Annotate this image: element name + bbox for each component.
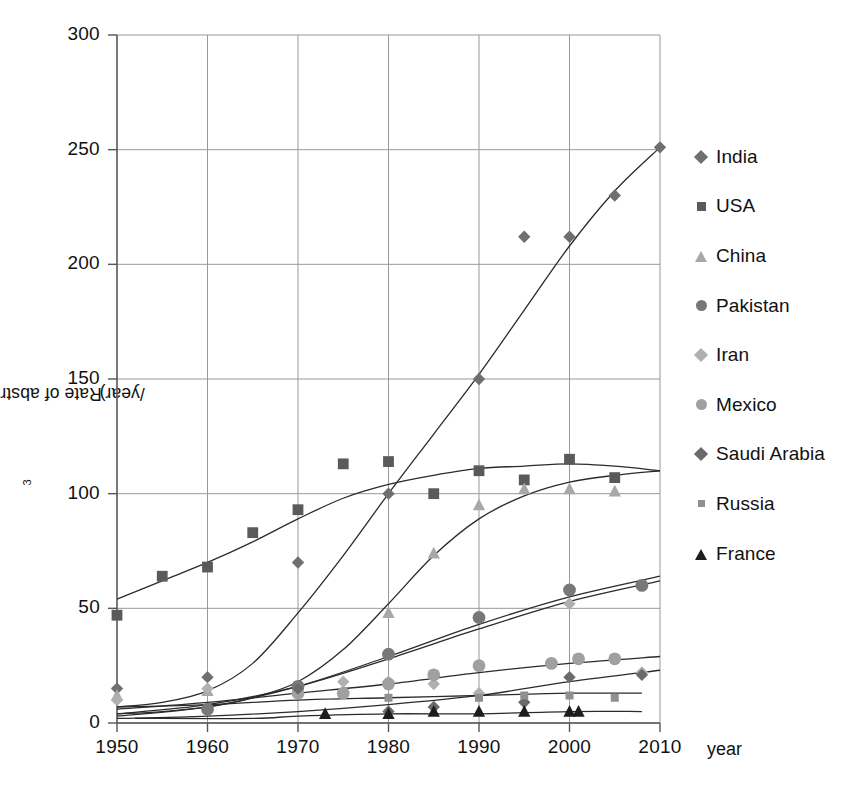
marker-glyph (694, 150, 708, 164)
diamond-marker-icon (690, 149, 712, 165)
data-point-india (382, 487, 394, 499)
marker-glyph (696, 399, 707, 410)
x-axis-tick-label: 2000 (525, 736, 615, 758)
legend-item-iran[interactable]: Iran (690, 330, 853, 380)
x-axis-tick-label: 1990 (434, 736, 524, 758)
y-axis-tick-label: 250 (38, 138, 100, 160)
data-point-china (563, 482, 575, 494)
data-point-usa (609, 472, 620, 483)
y-axis-tick-label: 300 (38, 23, 100, 45)
data-point-mexico (382, 678, 395, 691)
data-point-india (473, 373, 485, 385)
legend-item-label: Pakistan (716, 295, 790, 317)
data-point-russia (520, 691, 528, 699)
data-point-usa (157, 571, 168, 582)
legend-item-france[interactable]: France (690, 529, 853, 579)
data-point-pakistan (636, 579, 649, 592)
data-point-russia (475, 694, 483, 702)
triangle-marker-icon (690, 248, 712, 264)
x-axis-tick-label: 1980 (344, 736, 434, 758)
data-point-usa (564, 454, 575, 465)
legend-item-label: France (716, 543, 776, 565)
data-point-pakistan (563, 584, 576, 597)
data-point-mexico (572, 652, 585, 665)
data-point-pakistan (201, 703, 214, 716)
marker-glyph (697, 202, 706, 211)
data-point-mexico (427, 668, 440, 681)
data-point-usa (247, 527, 258, 538)
data-point-china (609, 485, 621, 497)
data-point-india (609, 189, 621, 201)
circle-marker-icon (690, 397, 712, 413)
y-axis-tick-label: 0 (38, 711, 100, 733)
data-point-russia (611, 694, 619, 702)
marker-glyph (698, 500, 705, 507)
chart-legend: IndiaUSAChinaPakistanIranMexicoSaudi Ara… (690, 132, 853, 578)
data-point-usa (293, 504, 304, 515)
chart-figure: Rate of abstraction (km3/year) 050100150… (0, 0, 853, 788)
data-point-iran (111, 694, 123, 706)
data-point-india (292, 556, 304, 568)
legend-item-label: Iran (716, 344, 749, 366)
data-point-usa (383, 456, 394, 467)
marker-glyph (694, 447, 708, 461)
data-point-france (473, 705, 485, 717)
data-point-russia (385, 694, 393, 702)
data-point-usa (112, 610, 123, 621)
data-point-mexico (545, 657, 558, 670)
data-point-saudi-arabia (636, 669, 648, 681)
data-point-russia (566, 691, 574, 699)
diamond-marker-icon (690, 347, 712, 363)
legend-item-pakistan[interactable]: Pakistan (690, 281, 853, 331)
legend-item-label: Saudi Arabia (716, 443, 825, 465)
data-point-mexico (608, 652, 621, 665)
marker-glyph (695, 549, 707, 560)
data-point-pakistan (473, 611, 486, 624)
data-point-mexico (473, 659, 486, 672)
legend-item-label: Russia (716, 493, 775, 515)
data-point-india (518, 231, 530, 243)
x-axis-title: year (707, 739, 742, 760)
y-axis-tick-label: 200 (38, 252, 100, 274)
square-sm-marker-icon (690, 496, 712, 512)
legend-item-india[interactable]: India (690, 132, 853, 182)
marker-glyph (694, 348, 708, 362)
data-point-usa (202, 562, 213, 573)
x-axis-tick-label: 1960 (163, 736, 253, 758)
triangle-marker-icon (690, 546, 712, 562)
x-axis-tick-label: 2010 (615, 736, 705, 758)
legend-item-china[interactable]: China (690, 231, 853, 281)
y-axis-tick-label: 50 (38, 596, 100, 618)
data-point-india (201, 671, 213, 683)
y-axis-tick-label: 150 (38, 367, 100, 389)
legend-item-usa[interactable]: USA (690, 182, 853, 232)
square-marker-icon (690, 198, 712, 214)
legend-item-saudi-arabia[interactable]: Saudi Arabia (690, 430, 853, 480)
marker-glyph (696, 300, 707, 311)
x-axis-tick-label: 1950 (72, 736, 162, 758)
data-point-usa (474, 465, 485, 476)
legend-item-mexico[interactable]: Mexico (690, 380, 853, 430)
data-point-pakistan (382, 648, 395, 661)
legend-item-label: Mexico (716, 394, 777, 416)
data-point-china (473, 499, 485, 511)
y-axis-tick-label: 100 (38, 482, 100, 504)
data-point-france (518, 705, 530, 717)
data-point-usa (428, 488, 439, 499)
data-point-iran (337, 676, 349, 688)
legend-item-label: India (716, 146, 758, 168)
marker-glyph (695, 251, 707, 262)
legend-item-label: USA (716, 195, 755, 217)
data-point-usa (338, 458, 349, 469)
legend-item-label: China (716, 245, 766, 267)
legend-item-russia[interactable]: Russia (690, 479, 853, 529)
diamond-marker-icon (690, 446, 712, 462)
data-point-mexico (337, 687, 350, 700)
data-point-china (428, 547, 440, 559)
x-axis-tick-label: 1970 (253, 736, 343, 758)
circle-marker-icon (690, 298, 712, 314)
